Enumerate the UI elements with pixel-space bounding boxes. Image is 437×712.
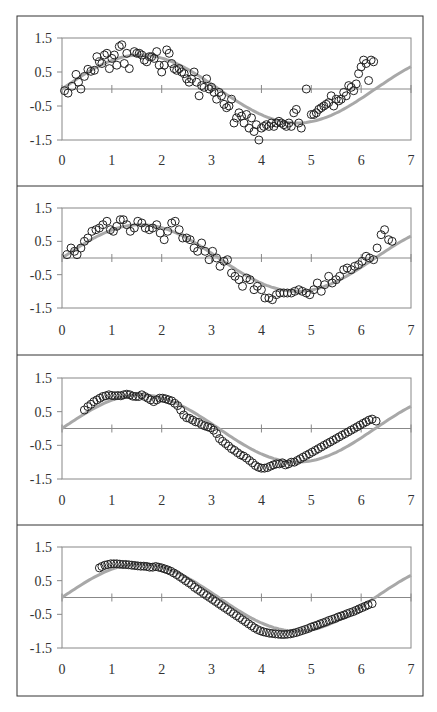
y-tick-label: -0.5 bbox=[30, 99, 52, 114]
data-point-marker bbox=[335, 97, 343, 105]
y-tick-label: -0.5 bbox=[30, 438, 52, 453]
data-point-marker bbox=[113, 61, 121, 69]
x-tick-label: 7 bbox=[408, 153, 415, 168]
data-point-marker bbox=[160, 61, 168, 69]
x-tick-label: 7 bbox=[408, 493, 415, 508]
data-point-marker bbox=[341, 430, 349, 438]
panel-dividers bbox=[17, 186, 423, 525]
data-point-marker bbox=[335, 433, 343, 441]
x-tick-label: 5 bbox=[308, 153, 315, 168]
data-point-marker bbox=[317, 443, 325, 451]
data-point-marker bbox=[160, 236, 168, 244]
x-tick-label: 3 bbox=[208, 153, 215, 168]
data-point-marker bbox=[233, 114, 241, 122]
x-tick-label: 7 bbox=[408, 323, 415, 338]
data-point-marker bbox=[103, 49, 111, 57]
data-point-marker bbox=[216, 262, 224, 270]
x-tick-label: 1 bbox=[108, 493, 115, 508]
data-point-marker bbox=[353, 423, 361, 431]
data-point-marker bbox=[93, 396, 101, 404]
x-tick-label: 4 bbox=[258, 662, 265, 677]
x-tick-label: 1 bbox=[108, 662, 115, 677]
y-tick-label: -1.5 bbox=[30, 301, 52, 316]
scatter-series bbox=[80, 390, 380, 472]
data-point-marker bbox=[150, 398, 158, 406]
x-tick-label: 1 bbox=[108, 153, 115, 168]
y-tick-label: 1.5 bbox=[35, 540, 53, 555]
x-tick-label: 4 bbox=[258, 323, 265, 338]
scatter-series bbox=[61, 41, 378, 144]
data-point-marker bbox=[320, 441, 328, 449]
data-point-marker bbox=[345, 82, 353, 90]
y-tick-label: -1.5 bbox=[30, 133, 52, 148]
data-point-marker bbox=[311, 446, 319, 454]
x-tick-label: 6 bbox=[358, 662, 365, 677]
data-point-marker bbox=[240, 119, 248, 127]
data-point-marker bbox=[373, 244, 381, 252]
data-point-marker bbox=[118, 41, 126, 49]
data-point-marker bbox=[120, 60, 128, 68]
x-tick-label: 3 bbox=[208, 323, 215, 338]
x-tick-label: 4 bbox=[258, 493, 265, 508]
data-point-marker bbox=[195, 92, 203, 100]
chart-panel-4-heavy-smoothing: 012345671.50.5-0.5-1.5 bbox=[30, 540, 415, 677]
y-tick-label: 1.5 bbox=[35, 31, 53, 46]
x-tick-label: 1 bbox=[108, 323, 115, 338]
x-tick-label: 4 bbox=[258, 153, 265, 168]
x-tick-label: 0 bbox=[59, 153, 66, 168]
x-tick-label: 0 bbox=[59, 493, 66, 508]
chart-panel-1-noisy: 012345671.50.5-0.5-1.5 bbox=[30, 31, 415, 168]
data-point-marker bbox=[356, 421, 364, 429]
data-point-marker bbox=[314, 445, 322, 453]
y-tick-label: 1.5 bbox=[35, 201, 53, 216]
data-point-marker bbox=[297, 124, 305, 132]
data-point-marker bbox=[308, 448, 316, 456]
data-point-marker bbox=[180, 70, 188, 78]
data-point-marker bbox=[125, 65, 133, 73]
data-point-marker bbox=[370, 58, 378, 66]
y-tick-label: 0.5 bbox=[35, 405, 53, 420]
y-tick-label: -1.5 bbox=[30, 641, 52, 656]
data-point-marker bbox=[329, 436, 337, 444]
data-point-marker bbox=[250, 286, 258, 294]
x-tick-label: 2 bbox=[158, 493, 165, 508]
x-tick-label: 6 bbox=[358, 323, 365, 338]
data-point-marker bbox=[143, 58, 151, 66]
x-tick-label: 0 bbox=[59, 662, 66, 677]
x-tick-label: 3 bbox=[208, 662, 215, 677]
data-point-marker bbox=[173, 66, 181, 74]
data-point-marker bbox=[93, 53, 101, 61]
y-tick-label: 0.5 bbox=[35, 234, 53, 249]
y-tick-label: -1.5 bbox=[30, 472, 52, 487]
x-tick-label: 2 bbox=[158, 153, 165, 168]
chart-panel-2-light-smoothing: 012345671.50.5-0.5-1.5 bbox=[30, 201, 415, 338]
x-tick-label: 6 bbox=[358, 153, 365, 168]
data-point-marker bbox=[239, 282, 247, 290]
x-tick-label: 0 bbox=[59, 323, 66, 338]
data-point-marker bbox=[347, 426, 355, 434]
data-point-marker bbox=[344, 428, 352, 436]
data-point-marker bbox=[72, 70, 80, 78]
x-tick-label: 2 bbox=[158, 323, 165, 338]
y-tick-label: 0.5 bbox=[35, 65, 53, 80]
x-tick-label: 6 bbox=[358, 493, 365, 508]
figure-frame bbox=[17, 16, 423, 696]
data-point-marker bbox=[305, 450, 313, 458]
figure-caption bbox=[17, 704, 423, 712]
data-point-marker bbox=[313, 279, 321, 287]
data-point-marker bbox=[230, 119, 238, 127]
x-tick-label: 2 bbox=[158, 662, 165, 677]
chart-panel-3-moderate-smoothing: 012345671.50.5-0.5-1.5 bbox=[30, 371, 415, 508]
data-point-marker bbox=[365, 77, 373, 85]
data-point-marker bbox=[175, 226, 183, 234]
data-point-marker bbox=[326, 438, 334, 446]
y-tick-label: 0.5 bbox=[35, 574, 53, 589]
scatter-series bbox=[95, 560, 376, 639]
data-point-marker bbox=[200, 83, 208, 91]
data-point-marker bbox=[299, 453, 307, 461]
data-point-marker bbox=[105, 65, 113, 73]
data-point-marker bbox=[115, 43, 123, 51]
x-tick-label: 5 bbox=[308, 662, 315, 677]
x-tick-label: 5 bbox=[308, 493, 315, 508]
y-tick-label: -0.5 bbox=[30, 607, 52, 622]
